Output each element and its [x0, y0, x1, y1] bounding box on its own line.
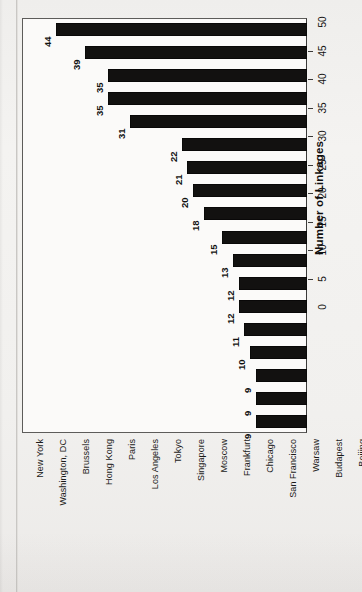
- category-label: Budapest: [334, 439, 344, 539]
- bar: [244, 323, 307, 336]
- bar-value-label: 35: [94, 106, 105, 117]
- bar-value-label: 9: [242, 388, 253, 393]
- category-label: New York: [35, 439, 45, 539]
- bar: [239, 277, 307, 290]
- bar: [108, 69, 308, 82]
- axis-tick-label: 5: [316, 271, 330, 287]
- bar-value-label: 12: [225, 313, 236, 324]
- category-label: Washington, DC: [58, 439, 68, 539]
- bar: [222, 231, 308, 244]
- bar: [204, 207, 307, 220]
- bar-value-label: 44: [42, 36, 53, 47]
- value-axis-title: Number of Linkages: [313, 75, 325, 255]
- bar: [250, 346, 307, 359]
- bar: [56, 23, 307, 36]
- category-label: Beijing: [357, 439, 362, 539]
- axis-tick: [308, 51, 313, 52]
- category-label: Los Angeles: [150, 439, 160, 539]
- bar: [256, 369, 307, 382]
- cut-off-caption-region: Figure 4. (continued on next page): [0, 0, 14, 592]
- bar: [130, 115, 307, 128]
- category-label: San Francisco: [288, 439, 298, 539]
- bar-value-label: 12: [225, 290, 236, 301]
- bar-value-label: 18: [190, 221, 201, 232]
- bar-value-label: 20: [179, 198, 190, 209]
- scan-smudge: [0, 532, 362, 592]
- category-label: Chicago: [265, 439, 275, 539]
- bar: [233, 254, 307, 267]
- bar: [256, 415, 307, 428]
- category-label: Tokyo: [173, 439, 183, 539]
- axis-tick: [308, 279, 313, 280]
- bar: [193, 184, 307, 197]
- axis-tick-label: 45: [316, 43, 330, 59]
- bar-value-label: 21: [173, 175, 184, 186]
- bar: [182, 138, 307, 151]
- bar-value-label: 13: [219, 267, 230, 278]
- category-label: Moscow: [219, 439, 229, 539]
- bar-value-label: 31: [116, 129, 127, 140]
- bar-value-label: 35: [94, 83, 105, 94]
- bar-value-label: 39: [71, 60, 82, 71]
- axis-tick-label: 0: [316, 299, 330, 315]
- category-label: Warsaw: [311, 439, 321, 539]
- bar-value-label: 9: [242, 411, 253, 416]
- bar: [108, 92, 308, 105]
- category-label: Brussels: [81, 439, 91, 539]
- page-gutter-rule-shadow: [17, 0, 18, 592]
- bar: [187, 161, 307, 174]
- category-label: Paris: [127, 439, 137, 539]
- bar: [85, 46, 307, 59]
- bar-value-label: 15: [208, 244, 219, 255]
- category-label: Singapore: [196, 439, 206, 539]
- bar: [256, 392, 307, 405]
- category-label: Hong Kong: [104, 439, 114, 539]
- axis-tick-label: 50: [316, 14, 330, 30]
- bar: [239, 300, 307, 313]
- bar-value-label: 22: [168, 152, 179, 163]
- bar-value-label: 10: [236, 359, 247, 370]
- category-label: Frankfurt: [242, 439, 252, 539]
- bar-value-label: 11: [230, 337, 241, 347]
